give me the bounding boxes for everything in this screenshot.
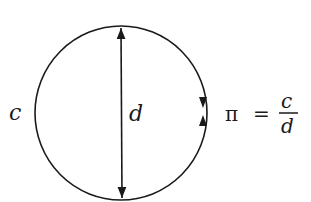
- formula-denominator: d: [281, 114, 294, 138]
- circumference-label: c: [9, 100, 21, 125]
- equals-sign: =: [253, 102, 270, 126]
- pi-symbol: π: [225, 102, 238, 126]
- circumference-arrow-up-icon: [199, 115, 207, 126]
- formula-numerator: c: [281, 89, 292, 113]
- diameter-label: d: [129, 101, 143, 126]
- diameter-line: [121, 28, 122, 198]
- pi-formula: π = c d: [225, 89, 298, 138]
- pi-diagram: c d π = c d: [0, 0, 311, 202]
